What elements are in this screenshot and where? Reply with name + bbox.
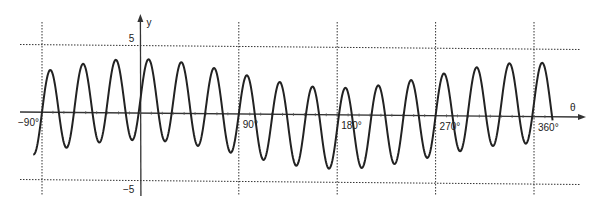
y-tick-label: −5 <box>123 184 135 195</box>
x-axis-label: θ <box>570 102 576 113</box>
chart: −90°90°180°270°360°5−5θy <box>0 0 598 211</box>
x-tick-label: 270° <box>440 121 461 132</box>
x-tick-label: 90° <box>243 119 258 130</box>
y-axis <box>140 18 141 196</box>
x-tick-label: −90° <box>18 117 39 128</box>
grid-lines <box>20 22 580 195</box>
x-tick-label: 360° <box>538 122 559 133</box>
x-axis <box>20 112 582 117</box>
y-axis-label: y <box>146 17 151 28</box>
y-axis-arrow-icon <box>137 14 143 22</box>
y-tick-label: 5 <box>129 33 135 44</box>
gridline-y-5 <box>20 45 580 50</box>
x-tick-label: 180° <box>341 120 362 131</box>
tick-labels: −90°90°180°270°360°5−5θy <box>18 17 576 195</box>
x-axis-arrow-icon <box>578 114 586 120</box>
gridline-y--5 <box>20 180 580 185</box>
